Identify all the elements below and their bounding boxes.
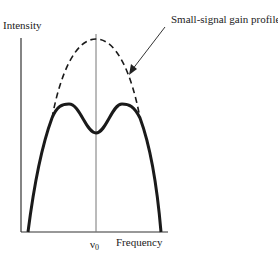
gain-profile-diagram: Intensity Small-signal gain profile ν0 F…: [0, 0, 278, 265]
nu-subscript: 0: [95, 243, 99, 252]
center-frequency-label: ν0: [90, 238, 99, 252]
annotation-arrow-line: [132, 27, 165, 70]
annotation-label: Small-signal gain profile: [171, 13, 278, 25]
small-signal-gain-curve: [28, 0, 161, 232]
x-axis-label: Frequency: [116, 236, 163, 248]
saturated-gain-curve: [28, 104, 161, 232]
y-axis-label: Intensity: [3, 19, 42, 31]
